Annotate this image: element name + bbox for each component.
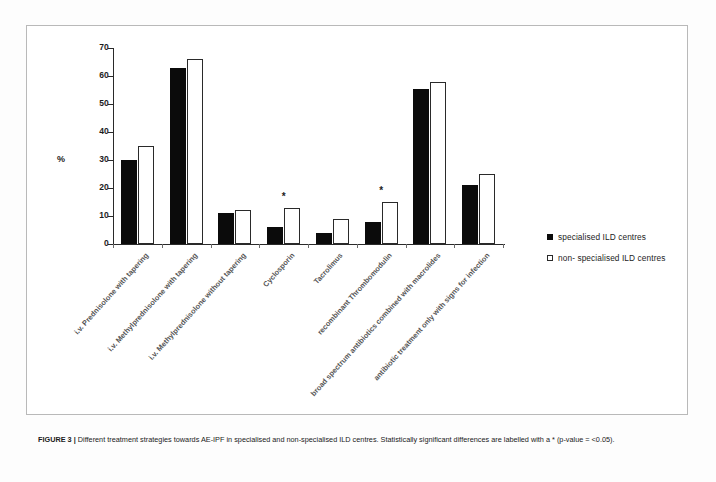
x-axis-tick-mark xyxy=(357,244,358,248)
bar-non-specialised xyxy=(235,210,251,244)
x-axis-tick-mark xyxy=(454,244,455,248)
x-axis-category-label-text: Tacrolimus xyxy=(312,251,345,286)
bar-non-specialised xyxy=(479,174,495,244)
x-axis-category-label-text: i.v. Methylprednisolone without tapering xyxy=(146,251,247,362)
bar-specialised xyxy=(365,222,381,244)
x-axis-tick-mark xyxy=(308,244,309,248)
y-axis-tick-label: 20 xyxy=(99,182,109,192)
figure-caption-label: FIGURE 3 | xyxy=(38,435,76,444)
y-axis-tick-label: 50 xyxy=(99,98,109,108)
x-axis-tick-mark xyxy=(259,244,260,248)
bar-non-specialised xyxy=(430,82,446,244)
y-axis-line xyxy=(113,48,114,244)
bar-group xyxy=(316,48,349,244)
figure-container: % 010203040506070 ** i.v. Prednisolone w… xyxy=(0,0,716,482)
x-axis-line xyxy=(113,244,505,245)
chart-legend: specialised ILD centresnon- specialised … xyxy=(547,232,666,274)
x-axis-tick-mark xyxy=(406,244,407,248)
y-axis-tick-label: 10 xyxy=(99,210,109,220)
legend-item: non- specialised ILD centres xyxy=(547,253,666,263)
x-axis-tick-mark xyxy=(162,244,163,248)
x-axis-category-label-text: i.v. Methylprednisolone with tapering xyxy=(105,251,198,353)
bar-non-specialised xyxy=(187,59,203,244)
legend-item: specialised ILD centres xyxy=(547,232,666,242)
y-axis-title: % xyxy=(57,154,65,164)
significance-star: * xyxy=(282,192,286,202)
chart-panel: % 010203040506070 ** i.v. Prednisolone w… xyxy=(26,25,688,415)
bar-specialised xyxy=(413,89,429,244)
bar-group: * xyxy=(267,48,300,244)
x-axis-category-label-text: Cyclosporin xyxy=(261,251,296,289)
x-axis-tick-mark xyxy=(113,244,114,248)
bar-non-specialised xyxy=(138,146,154,244)
figure-caption-text: Different treatment strategies towards A… xyxy=(76,435,615,444)
y-axis-tick-label: 60 xyxy=(99,70,109,80)
y-axis-tick-label: 0 xyxy=(104,238,109,248)
bar-group xyxy=(413,48,446,244)
x-axis-tick-mark xyxy=(211,244,212,248)
x-axis-tick-mark xyxy=(503,244,504,248)
bar-specialised xyxy=(121,160,137,244)
legend-swatch-icon xyxy=(547,234,553,240)
x-axis-category-label-text: antibiotic treatment only with signs for… xyxy=(372,251,492,382)
bar-group xyxy=(218,48,251,244)
legend-swatch-icon xyxy=(547,255,553,261)
legend-item-label: non- specialised ILD centres xyxy=(558,253,666,263)
bar-non-specialised xyxy=(382,202,398,244)
bar-group xyxy=(170,48,203,244)
y-axis-tick-label: 70 xyxy=(99,42,109,52)
significance-star: * xyxy=(379,186,383,196)
y-axis-tick-label: 30 xyxy=(99,154,109,164)
bar-non-specialised xyxy=(284,208,300,244)
bar-non-specialised xyxy=(333,219,349,244)
bar-group xyxy=(121,48,154,244)
legend-item-label: specialised ILD centres xyxy=(558,232,646,242)
bar-specialised xyxy=(462,185,478,244)
bar-specialised xyxy=(170,68,186,244)
bar-specialised xyxy=(218,213,234,244)
figure-caption: FIGURE 3 | Different treatment strategie… xyxy=(38,434,683,445)
plot-area: 010203040506070 ** i.v. Prednisolone wit… xyxy=(113,48,503,244)
bar-group: * xyxy=(365,48,398,244)
bar-group xyxy=(462,48,495,244)
bar-specialised xyxy=(267,227,283,244)
bar-specialised xyxy=(316,233,332,244)
y-axis-tick-label: 40 xyxy=(99,126,109,136)
